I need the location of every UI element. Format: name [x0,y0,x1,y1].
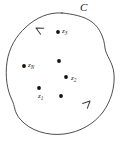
point-z1-label-subscript: 1 [41,95,44,101]
point-zn-dot [22,64,26,68]
point-z3-label: z3 [62,28,67,35]
contour-label-c: C [80,2,87,13]
point-z3-label-subscript: 3 [65,30,68,36]
point-unlabeled-lower-dot [59,94,63,98]
contour-svg [0,0,122,141]
point-z3-dot [56,30,60,34]
point-z2-dot [64,75,68,79]
point-z1-label: z1 [38,93,43,100]
contour-integral-figure: C z3zNz2z1 [0,0,122,141]
arrow-upper-left-icon [34,25,43,34]
point-z2-label-subscript: 2 [74,77,77,83]
point-zn-label-subscript: N [31,64,34,70]
point-unlabeled-center-dot [57,59,61,63]
point-z1-dot [37,86,41,90]
contour-curve-c [6,13,114,135]
arrow-lower-right-icon [83,99,93,109]
point-zn-label: zN [28,62,34,69]
point-z2-label: z2 [71,75,76,82]
